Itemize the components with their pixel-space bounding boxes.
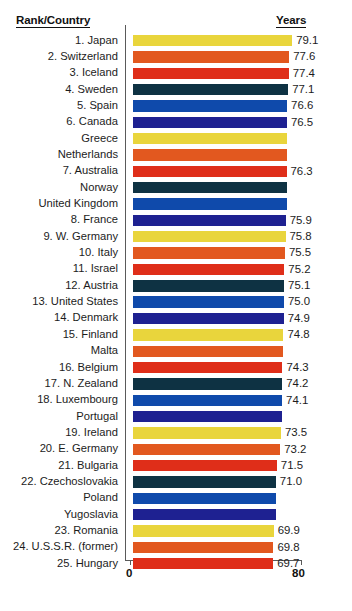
bar-row: 23. Romania69.9 [0,523,352,540]
bar-value-label: 75.0 [288,295,310,308]
bar-row-country-label: 10. Italy [79,246,118,259]
bar-row: 6. Canada76.5 [0,114,352,131]
bar-row: 24. U.S.S.R. (former)69.8 [0,539,352,556]
bar-row-country-label: Poland [83,491,118,504]
bar-value-label: 73.5 [285,426,307,439]
bar-row-country-label: Norway [80,181,118,194]
bar [133,346,283,357]
bar-row-country-label: 11. Israel [73,262,118,275]
bar-value-label: 79.1 [296,34,318,47]
bar-row-country-label: 7. Australia [63,164,118,177]
bar-row: 18. Luxembourg74.1 [0,392,352,409]
bar-row: Norway [0,180,352,197]
bar-row: 15. Finland74.8 [0,327,352,344]
bar [133,329,283,340]
bar [133,378,282,389]
bar-row-country-label: 14. Denmark [54,311,118,324]
bar [133,35,292,46]
bar [133,411,282,422]
bar-row-country-label: 19. Ireland [65,426,118,439]
bar-row: 13. United States75.0 [0,294,352,311]
bar [133,247,285,258]
bar-row: Netherlands [0,147,352,164]
bar [133,133,287,144]
bar [133,509,276,520]
bar-value-label: 77.6 [293,50,315,63]
life-expectancy-bar-chart: Rank/Country Years 0 80 1. Japan79.12. S… [0,0,352,611]
bar [133,395,282,406]
bar-row: 5. Spain76.6 [0,98,352,115]
bar [133,362,282,373]
bar [133,525,274,536]
bar [133,460,277,471]
bar-row: 2. Switzerland77.6 [0,49,352,66]
bar-row-country-label: 3. Iceland [69,66,118,79]
bar [133,100,287,111]
bar-value-label: 75.8 [290,230,312,243]
bar [133,444,280,455]
bar-row-country-label: United Kingdom [38,197,118,210]
bar-row: 7. Australia76.3 [0,163,352,180]
bar-value-label: 69.8 [277,541,299,554]
bar-value-label: 75.2 [288,263,310,276]
bar-value-label: 76.5 [291,116,313,129]
bar [133,182,287,193]
bar [133,117,287,128]
column-header-rank-country: Rank/Country [16,14,90,28]
bar-value-label: 74.8 [287,328,309,341]
bar [133,215,286,226]
bar [133,542,273,553]
bar-row: 17. N. Zealand74.2 [0,376,352,393]
bar-row: Portugal [0,409,352,426]
bar-row-country-label: 23. Romania [55,524,118,537]
bar-row: 9. W. Germany75.8 [0,229,352,246]
bar-row-country-label: 20. E. Germany [40,442,118,455]
bar-row: 3. Iceland77.4 [0,65,352,82]
bar-row-country-label: 5. Spain [77,99,118,112]
bar-value-label: 74.1 [286,394,308,407]
bar-value-label: 77.4 [293,67,315,80]
bar-row-country-label: 17. N. Zealand [45,377,118,390]
bar-row: 11. Israel75.2 [0,261,352,278]
bar-value-label: 74.3 [286,361,308,374]
bar-row-country-label: 8. France [71,213,118,226]
bar [133,296,284,307]
bar-row: 19. Ireland73.5 [0,425,352,442]
bar [133,476,276,487]
bar [133,51,289,62]
bar-row: 25. Hungary69.7 [0,556,352,573]
bar-row: 20. E. Germany73.2 [0,441,352,458]
bar-row-country-label: Yugoslavia [64,508,118,521]
bar-row-country-label: 1. Japan [75,34,118,47]
bar-value-label: 75.1 [288,279,310,292]
bar-value-label: 76.6 [291,99,313,112]
bar [133,166,287,177]
bar-value-label: 69.9 [278,524,300,537]
bar-row: 14. Denmark74.9 [0,310,352,327]
bar-row: United Kingdom [0,196,352,213]
bar-row: Greece [0,131,352,148]
bar-value-label: 77.1 [292,83,314,96]
bar-value-label: 75.5 [289,246,311,259]
bar-row: 4. Sweden77.1 [0,82,352,99]
bar [133,84,288,95]
bar-row-country-label: Portugal [76,410,118,423]
bar-row: 12. Austria75.1 [0,278,352,295]
bar-row-country-label: Netherlands [58,148,118,161]
bar-row-country-label: 6. Canada [66,115,118,128]
bar-value-label: 75.9 [290,214,312,227]
bar-value-label: 76.3 [291,165,313,178]
bar-value-label: 71.0 [280,475,302,488]
bar-row: 22. Czechoslovakia71.0 [0,474,352,491]
bar-value-label: 73.2 [284,443,306,456]
bar-row: 1. Japan79.1 [0,33,352,50]
bar-row: Malta [0,343,352,360]
bar-row: 8. France75.9 [0,212,352,229]
bar-row: Poland [0,490,352,507]
bar-row-country-label: 18. Luxembourg [37,393,118,406]
bar [133,231,286,242]
bar [133,558,273,569]
bar-row-country-label: 12. Austria [65,279,118,292]
bar [133,264,284,275]
bar-row-country-label: 22. Czechoslovakia [21,475,118,488]
